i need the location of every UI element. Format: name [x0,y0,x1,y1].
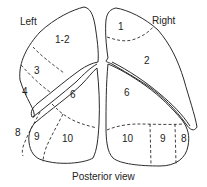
left-fissure-6-lower [52,104,97,128]
right-segment-label: 9 [160,133,166,144]
right-lower-lobe-outline [106,64,189,166]
right-fissure-6-lower [107,124,184,130]
left-segment-label: 3 [34,65,40,76]
right-fissure-9-8 [175,124,176,164]
left-segment-label: 4 [22,86,28,97]
left-segment-label: 9 [34,131,40,142]
right-segment-label: 8 [181,133,187,144]
right-segment-label: 10 [122,133,134,144]
right-fissure-10-9 [150,124,151,165]
right-segment-label: 2 [144,55,150,66]
diagram-caption: Posterior view [72,171,136,182]
left-segment-label: 10 [62,133,74,144]
left-segment-label: 6 [70,89,76,100]
right-segment-label: 1 [118,21,124,32]
left-side-label: Left [20,16,37,27]
right-side-label: Right [152,15,176,26]
left-segment-label: 1-2 [55,34,70,45]
right-segment-label: 6 [124,87,130,98]
right-fissure-1-2 [107,26,154,41]
lung-segments-diagram: Left Right 1-2 3 4 6 8 9 10 1 2 6 10 9 8… [0,0,207,187]
left-fissure-9-10 [43,114,63,162]
left-oblique-fissure-inner [33,64,97,117]
left-segment-label: 8 [15,127,21,138]
